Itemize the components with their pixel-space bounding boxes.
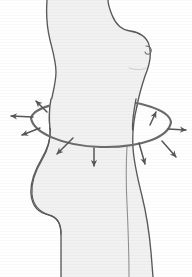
arrow-right-up [150, 112, 156, 125]
torso-overlay-fill [49, 99, 136, 128]
arrow-lower-left [22, 128, 40, 135]
body-silhouette [31, 0, 153, 277]
illustration-canvas: Waist circumference measurement - female… [0, 0, 192, 277]
torso-waist-illustration: Waist circumference measurement - female… [0, 0, 192, 277]
arrow-lower-mid-right [139, 143, 145, 164]
arrow-right [168, 129, 186, 130]
arrow-right-down [162, 141, 176, 157]
body-overlay-mask [49, 99, 136, 130]
arrow-left [11, 116, 33, 117]
